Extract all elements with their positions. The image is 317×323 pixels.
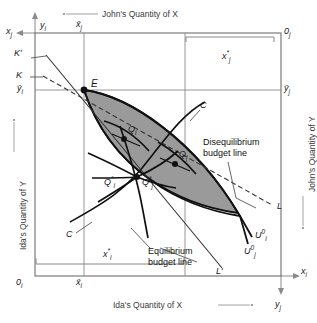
leader-disequilibrium [228, 162, 256, 208]
label-K: K [16, 70, 22, 80]
point-Qstar [134, 174, 140, 180]
left-title-dot [13, 119, 15, 121]
ida-y-axis-arrowhead [32, 12, 38, 19]
axis-label-ida-x: xi [301, 266, 307, 280]
xstar-john-bracket [186, 37, 274, 42]
label-point-E: E [91, 79, 98, 89]
label-u-john-zero: U0j [244, 243, 256, 260]
label-point-Qj: Qj [179, 149, 187, 163]
label-u-ida-zero: U0i [255, 227, 267, 244]
right-title-dot [302, 227, 304, 229]
label-xbar-john: x̄j [76, 19, 82, 33]
axis-title-bottom: Ida's Quantity of X [113, 300, 182, 310]
axis-title-right: John's Quantity of Y [307, 116, 317, 192]
axis-title-top: John's Quantity of X [102, 9, 178, 19]
label-ybar-ida: ȳi [17, 83, 23, 97]
label-ybar-john: ȳj [284, 83, 290, 97]
label-xstar-ida: x*i [103, 246, 111, 263]
axis-label-ida-y: yi [40, 20, 46, 34]
label-L: L [277, 201, 282, 211]
label-xstar-john: x*j [222, 48, 230, 65]
top-title-dot [63, 13, 65, 15]
edgeworth-box-drawing [0, 0, 317, 323]
point-Qi [121, 136, 127, 142]
john-x-axis-arrowhead [16, 30, 23, 36]
label-L-prime: L' [216, 266, 223, 276]
annotation-equilibrium-budget-line: Equilibrium budget line [148, 246, 193, 268]
annotation-disequilibrium-budget-line: Disequilibrium budget line [203, 137, 260, 159]
point-Qj [172, 161, 178, 167]
edgeworth-box-figure: yi xj xi yj 0i 0j x̄j x̄i ȳi ȳj x*j x*… [0, 0, 317, 323]
axis-label-john-y: yj [275, 299, 281, 313]
label-contract-curve-top: C [200, 100, 207, 110]
axis-label-john-x: xj [6, 26, 12, 40]
label-point-Qi-star: Q*i [104, 174, 115, 191]
label-xbar-ida: x̄i [76, 277, 82, 291]
label-point-Qj-star: Q*j [142, 174, 153, 191]
ida-x-axis-arrowhead [293, 273, 300, 279]
axis-title-left: Ida's Quantity of Y [18, 181, 28, 250]
leader-kprime [31, 56, 46, 58]
origin-label-john: 0j [284, 26, 290, 40]
label-contract-curve-bottom: C [66, 229, 73, 239]
label-K-prime: K' [14, 48, 22, 58]
bottom-title-dot [251, 304, 253, 306]
point-E [81, 87, 88, 94]
origin-label-ida: 0i [16, 277, 22, 291]
john-y-axis-arrowhead [278, 288, 284, 295]
label-point-Qi: Qi [128, 124, 136, 138]
